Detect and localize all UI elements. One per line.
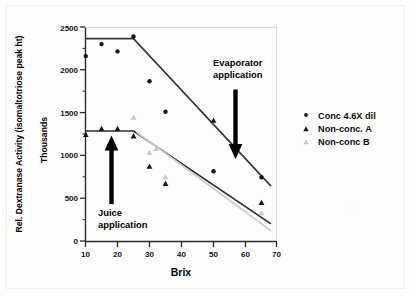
x-tick-label-20: 20 bbox=[113, 250, 122, 259]
data-point-nonconc-b bbox=[131, 115, 137, 120]
x-tick-labels: 10 20 30 40 50 60 70 bbox=[81, 250, 281, 259]
data-point-nonconc-b bbox=[147, 150, 153, 155]
data-point-nonconc-b bbox=[259, 210, 265, 215]
x-tick-label-60: 60 bbox=[241, 250, 250, 259]
data-point-conc bbox=[131, 34, 135, 38]
data-point-conc bbox=[147, 79, 151, 83]
x-tick-label-40: 40 bbox=[177, 250, 186, 259]
legend-label-nonconc-a: Non-conc. A bbox=[318, 124, 372, 134]
data-point-nonconc-a bbox=[131, 133, 137, 138]
juice-arrow-head-icon bbox=[105, 136, 119, 151]
data-point-nonconc-a bbox=[115, 126, 121, 131]
data-point-nonconc-a bbox=[99, 126, 105, 131]
legend-marker-nonconc-a-icon bbox=[303, 126, 308, 131]
series-nonconc-b-points bbox=[131, 115, 265, 216]
dextranase-activity-scatter-chart: 0 500 1000 1500 2000 2500 10 20 30 40 50… bbox=[0, 0, 415, 298]
annotation-evaporator-application: Evaporator application bbox=[213, 57, 263, 159]
data-point-nonconc-a bbox=[259, 200, 265, 205]
y-tick-label-1000: 1000 bbox=[60, 151, 78, 160]
y-tick-label-2000: 2000 bbox=[60, 66, 78, 75]
x-axis-title: Brix bbox=[171, 266, 192, 278]
evaporator-annotation-line1: Evaporator bbox=[213, 57, 263, 68]
x-tick-label-30: 30 bbox=[145, 250, 154, 259]
y-tick-label-1500: 1500 bbox=[60, 109, 78, 118]
evaporator-annotation-line2: application bbox=[213, 69, 263, 80]
y-tick-label-2500: 2500 bbox=[60, 24, 78, 33]
x-tick-label-70: 70 bbox=[272, 250, 281, 259]
trend-line-nonconc-b bbox=[137, 132, 271, 230]
legend-marker-nonconc-b-icon bbox=[303, 139, 308, 144]
legend-label-nonconc-b: Non-conc B bbox=[318, 137, 370, 147]
chart-legend: Conc 4.6X dil Non-conc. A Non-conc B bbox=[303, 111, 375, 147]
y-tick-label-0: 0 bbox=[74, 237, 79, 246]
y-axis-subtitle: Thousands bbox=[39, 117, 49, 163]
data-point-conc bbox=[211, 169, 215, 173]
legend-marker-conc-icon bbox=[304, 113, 308, 117]
data-point-conc bbox=[259, 175, 263, 179]
x-tick-label-50: 50 bbox=[209, 250, 218, 259]
data-point-conc bbox=[163, 110, 167, 114]
data-point-conc bbox=[115, 49, 119, 53]
chart-figure: 0 500 1000 1500 2000 2500 10 20 30 40 50… bbox=[0, 0, 415, 298]
data-point-nonconc-a bbox=[147, 164, 153, 169]
y-axis-title: Rel. Dextranase Activity (isomaltotriose… bbox=[14, 35, 24, 232]
scan-artifact bbox=[349, 207, 356, 214]
x-tick-label-10: 10 bbox=[81, 250, 90, 259]
data-point-nonconc-b bbox=[163, 174, 169, 179]
evaporator-arrow-head-icon bbox=[229, 144, 243, 159]
y-tick-label-500: 500 bbox=[65, 194, 79, 203]
legend-label-conc: Conc 4.6X dil bbox=[318, 111, 376, 121]
data-point-conc bbox=[99, 42, 103, 46]
annotation-juice-application: Juice application bbox=[98, 136, 148, 231]
juice-annotation-line1: Juice bbox=[98, 207, 122, 218]
x-axis-ticks bbox=[86, 242, 277, 248]
y-tick-labels: 0 500 1000 1500 2000 2500 bbox=[60, 24, 78, 247]
data-point-conc bbox=[84, 54, 88, 58]
juice-annotation-line2: application bbox=[98, 219, 148, 230]
data-point-nonconc-a bbox=[163, 181, 169, 186]
data-point-nonconc-a bbox=[211, 117, 217, 122]
